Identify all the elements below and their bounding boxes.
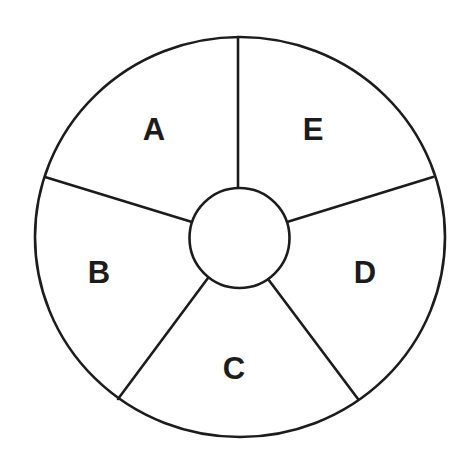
spoke-right [287,177,433,222]
segment-label-d: D [354,255,376,290]
center-circle [190,188,290,288]
segment-label-b: B [88,255,110,290]
spoke-lower-left [118,278,208,399]
segment-label-a: A [143,112,165,147]
segment-label-c: C [223,351,245,386]
segment-label-e: E [303,112,324,147]
spoke-lower-right [268,279,358,399]
five-segment-wheel-diagram: A B C D E [0,0,470,469]
spoke-left [45,177,192,222]
